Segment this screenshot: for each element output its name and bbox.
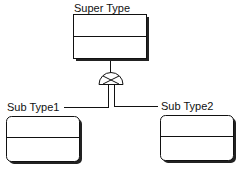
subtype2-box [161, 116, 234, 161]
subtype1-box [7, 117, 80, 162]
subtype2-label: Sub Type2 [161, 100, 213, 112]
subtype2-entity[interactable]: Sub Type2 [161, 100, 237, 163]
subtype1-label: Sub Type1 [7, 101, 59, 113]
supertype-subtype-diagram: Super Type Sub Type1 Sub Type2 [0, 0, 243, 173]
subtype-connector [64, 61, 158, 108]
subtype1-entity[interactable]: Sub Type1 [7, 101, 83, 164]
supertype-label: Super Type [74, 2, 130, 14]
exclusive-subtype-symbol [99, 73, 123, 85]
supertype-entity[interactable]: Super Type [74, 2, 150, 61]
